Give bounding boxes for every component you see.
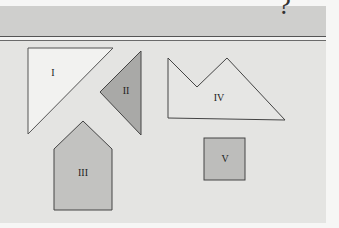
shape-III-polygon (54, 121, 112, 210)
shape-V: V (204, 138, 245, 180)
shape-IV-polygon (168, 58, 285, 120)
shape-II-label: II (123, 85, 130, 96)
shape-I-polygon (28, 48, 113, 134)
shape-I-label: I (51, 67, 54, 78)
shape-II-polygon (100, 51, 141, 135)
shape-V-label: V (221, 153, 229, 164)
shape-II: II (100, 51, 141, 135)
shapes-figure: I II III IV V (0, 0, 339, 228)
shape-III-label: III (78, 167, 88, 178)
shape-IV: IV (168, 58, 285, 120)
shape-III: III (54, 121, 112, 210)
shape-IV-label: IV (214, 92, 225, 103)
shape-I: I (28, 48, 113, 134)
